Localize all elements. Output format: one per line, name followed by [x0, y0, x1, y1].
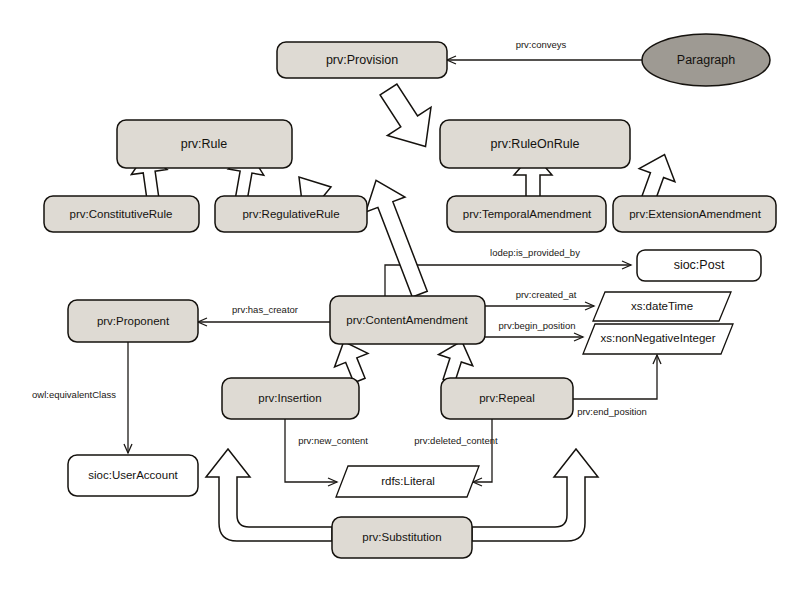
- node-prv-substitution[interactable]: prv:Substitution: [332, 517, 472, 558]
- edge-begin-position-label: prv:begin_position: [498, 320, 575, 331]
- edge-gen-ruleonrule: [367, 75, 448, 160]
- edge-gen-contentamendment: [356, 173, 439, 302]
- node-xs-datetime[interactable]: xs:dateTime: [593, 292, 731, 321]
- node-prv-ruleonrule[interactable]: prv:RuleOnRule: [440, 120, 630, 168]
- node-prv-contentamendment-label: prv:ContentAmendment: [346, 314, 468, 326]
- node-prv-extensionamendment-label: prv:ExtensionAmendment: [629, 208, 761, 220]
- edge-created-at-label: prv:created_at: [516, 289, 577, 300]
- node-sioc-post[interactable]: sioc:Post: [637, 250, 761, 281]
- edge-conveys: prv:conveys: [447, 39, 645, 60]
- node-prv-insertion[interactable]: prv:Insertion: [222, 378, 359, 419]
- edge-end-position-label: prv:end_position: [577, 406, 647, 417]
- node-prv-constitutiverule[interactable]: prv:ConstitutiveRule: [44, 196, 199, 232]
- edge-new-content-line: [285, 418, 337, 482]
- edge-gen-ruleonrule-arrow: [367, 75, 448, 160]
- node-rdfs-literal[interactable]: rdfs:Literal: [336, 466, 479, 497]
- node-prv-extensionamendment[interactable]: prv:ExtensionAmendment: [613, 196, 776, 232]
- edge-is-provided-by-label: lodep:is_provided_by: [490, 247, 580, 258]
- edge-begin-position: prv:begin_position: [484, 320, 583, 337]
- edge-new-content-label: prv:new_content: [298, 435, 368, 446]
- node-prv-substitution-label: prv:Substitution: [362, 531, 441, 543]
- node-prv-rule-label: prv:Rule: [181, 137, 228, 151]
- node-prv-temporalamendment-label: prv:TemporalAmendment: [463, 208, 592, 220]
- node-xs-datetime-label: xs:dateTime: [631, 300, 693, 312]
- node-prv-regulativerule[interactable]: prv:RegulativeRule: [215, 196, 367, 232]
- edge-created-at: prv:created_at: [484, 289, 594, 306]
- node-prv-proponent-label: prv:Proponent: [97, 315, 170, 327]
- node-prv-repeal-label: prv:Repeal: [479, 392, 535, 404]
- edge-gen-substitution-insertion: [206, 449, 332, 541]
- node-xs-nonnegativeinteger[interactable]: xs:nonNegativeInteger: [583, 324, 733, 354]
- edge-gen-substitution-repeal-arrow: [472, 449, 598, 541]
- edge-equivalent-class: owl:equivalentClass: [32, 341, 128, 453]
- edge-conveys-label: prv:conveys: [516, 39, 567, 50]
- node-prv-provision-label: prv:Provision: [326, 53, 398, 67]
- node-paragraph-label: Paragraph: [677, 53, 735, 67]
- node-paragraph[interactable]: Paragraph: [642, 34, 770, 86]
- node-prv-contentamendment[interactable]: prv:ContentAmendment: [330, 296, 485, 344]
- node-sioc-post-label: sioc:Post: [674, 258, 725, 272]
- edge-has-creator-label: prv:has_creator: [232, 304, 298, 315]
- node-prv-insertion-label: prv:Insertion: [258, 392, 321, 404]
- node-prv-provision[interactable]: prv:Provision: [277, 42, 447, 78]
- node-prv-temporalamendment[interactable]: prv:TemporalAmendment: [447, 196, 606, 232]
- edge-deleted-content-label: prv:deleted_content: [414, 435, 498, 446]
- node-prv-ruleonrule-label: prv:RuleOnRule: [491, 137, 580, 151]
- node-prv-repeal[interactable]: prv:Repeal: [441, 378, 573, 419]
- node-xs-nonnegativeinteger-label: xs:nonNegativeInteger: [600, 332, 715, 344]
- edge-equivalent-class-label: owl:equivalentClass: [32, 389, 116, 400]
- edge-gen-substitution-repeal: [472, 449, 598, 541]
- ontology-class-diagram: prv:conveys lodep:is_provided_by prv:cre…: [0, 0, 800, 589]
- node-prv-constitutiverule-label: prv:ConstitutiveRule: [70, 208, 173, 220]
- node-sioc-useraccount[interactable]: sioc:UserAccount: [68, 455, 198, 496]
- node-prv-proponent[interactable]: prv:Proponent: [68, 300, 198, 342]
- node-rdfs-literal-label: rdfs:Literal: [381, 475, 435, 487]
- node-prv-rule[interactable]: prv:Rule: [117, 120, 292, 168]
- edge-gen-substitution-insertion-arrow: [206, 449, 332, 541]
- diagram-canvas: prv:conveys lodep:is_provided_by prv:cre…: [0, 0, 800, 589]
- edge-has-creator: prv:has_creator: [198, 304, 330, 322]
- edge-gen-contentamendment-arrow: [356, 173, 439, 302]
- node-prv-regulativerule-label: prv:RegulativeRule: [242, 208, 339, 220]
- node-sioc-useraccount-label: sioc:UserAccount: [88, 469, 178, 481]
